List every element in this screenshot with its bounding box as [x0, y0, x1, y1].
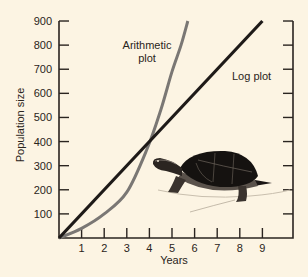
- x-axis-title: Years: [160, 254, 188, 266]
- x-tick-label: 5: [169, 242, 175, 254]
- y-tick-label: 200: [34, 184, 52, 196]
- x-tick-label: 4: [146, 242, 152, 254]
- x-tick-label: 8: [237, 242, 243, 254]
- turtle-illustration: [153, 151, 290, 212]
- y-tick-label: 800: [34, 39, 52, 51]
- population-chart: 100200300400500600700800900123456789 Pop…: [0, 0, 308, 277]
- series: [59, 21, 262, 238]
- y-tick-label: 900: [34, 15, 52, 27]
- x-tick-label: 6: [192, 242, 198, 254]
- x-tick-label: 3: [124, 242, 130, 254]
- arithmetic-plot-line: [59, 21, 188, 238]
- x-tick-label: 2: [101, 242, 107, 254]
- x-tick-label: 9: [259, 242, 265, 254]
- y-tick-label: 600: [34, 87, 52, 99]
- x-tick-label: 7: [214, 242, 220, 254]
- axis-frame: [59, 21, 293, 238]
- axes: [59, 21, 293, 238]
- y-tick-label: 300: [34, 160, 52, 172]
- y-tick-label: 500: [34, 111, 52, 123]
- log-plot-label: Log plot: [232, 70, 271, 82]
- arithmetic-plot-label-line2: plot: [138, 52, 156, 64]
- log-plot-line: [59, 21, 262, 238]
- y-tick-label: 700: [34, 63, 52, 75]
- y-tick-label: 400: [34, 136, 52, 148]
- y-axis-title: Population size: [14, 88, 26, 163]
- y-tick-label: 100: [34, 208, 52, 220]
- x-tick-label: 1: [79, 242, 85, 254]
- arithmetic-plot-label-line1: Arithmetic: [123, 39, 172, 51]
